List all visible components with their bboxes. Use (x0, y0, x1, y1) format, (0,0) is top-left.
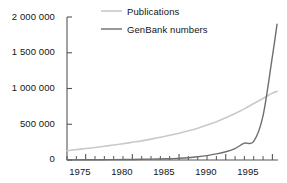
chart-container: 2 000 000 1 500 000 1 000 000 500 000 0 … (0, 0, 287, 183)
y-axis-ticks (67, 17, 72, 160)
series-line-genbank (67, 24, 277, 160)
chart-svg (0, 0, 287, 183)
series-line-publications (67, 91, 277, 150)
